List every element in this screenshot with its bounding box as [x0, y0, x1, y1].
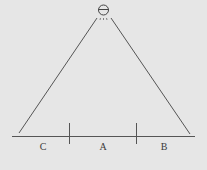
region-label-c: C — [40, 141, 47, 152]
region-label-a: A — [99, 141, 106, 152]
eye-viewer-icon — [99, 5, 109, 20]
right-sight-line — [111, 18, 190, 134]
left-sight-line — [19, 18, 97, 133]
region-label-b: B — [161, 141, 168, 152]
